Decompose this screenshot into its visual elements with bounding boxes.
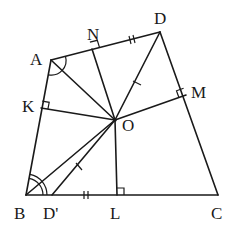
label-l: L: [110, 204, 120, 223]
label-m: M: [191, 83, 206, 102]
label-c: C: [211, 204, 222, 223]
label-b: B: [14, 204, 25, 223]
side-cd: [160, 32, 218, 195]
geometry-diagram: A B C D O N K M L D': [0, 0, 240, 229]
segment-od-prime: [52, 120, 115, 195]
label-o: O: [122, 116, 134, 135]
segment-ol: [115, 120, 117, 195]
label-d: D: [154, 9, 166, 28]
label-k: K: [22, 97, 35, 116]
label-n: N: [87, 25, 99, 44]
segments-from-o: [26, 32, 186, 195]
side-ab: [26, 60, 51, 195]
point-o-dot: [113, 118, 117, 122]
angle-arc-a-top: [62, 56, 66, 70]
point-labels: A B C D O N K M L D': [14, 9, 222, 223]
label-a: A: [30, 50, 43, 69]
label-d-prime: D': [43, 204, 58, 223]
angle-arc-a: [48, 70, 62, 75]
side-da: [51, 32, 160, 60]
right-angle-l: [117, 188, 124, 195]
